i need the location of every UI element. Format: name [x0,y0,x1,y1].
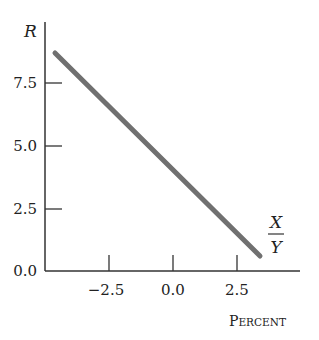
x-tick-label: 2.5 [225,281,249,299]
y-tick-label: 0.0 [13,262,37,280]
y-tick-label: 7.5 [13,74,37,92]
line-label-denominator: Y [270,237,283,257]
line-label-numerator: X [268,212,283,232]
x-tick-label: −2.5 [88,281,124,299]
x-tick-label: 0.0 [161,281,185,299]
y-tick-label: 5.0 [13,137,37,155]
chart: 7.5 5.0 2.5 0.0 −2.5 0.0 2.5 R PERCENT X… [0,0,319,340]
y-tick-label: 2.5 [13,200,37,218]
data-line-x-over-y [55,53,260,256]
y-axis-title: R [23,21,37,41]
x-axis-title: PERCENT [229,313,286,329]
